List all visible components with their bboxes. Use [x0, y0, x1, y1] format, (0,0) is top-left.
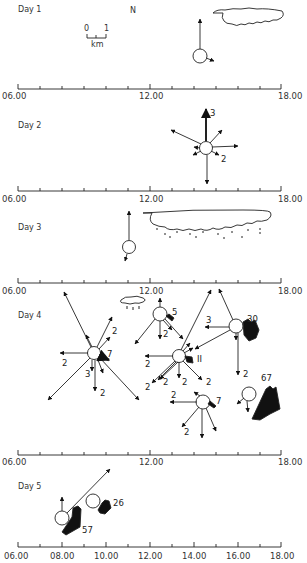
day1-panel	[18, 8, 283, 89]
day2-tick-0600: 06.00	[2, 194, 26, 204]
day4-a-count-s: 2	[100, 388, 105, 398]
day3-tick-1200: 12.00	[139, 286, 163, 296]
day4-tick-1200: 12.00	[139, 457, 163, 467]
scale-one: 1	[104, 24, 109, 33]
day5-tick-1600: 16.00	[226, 551, 250, 561]
day4-c-count-sw1: 2	[145, 382, 150, 392]
day4-b-label: 5	[172, 307, 177, 317]
day4-a-count-ne: 2	[112, 326, 117, 336]
day4-tick-0600: 06.00	[2, 457, 26, 467]
day5-a-label: 57	[82, 525, 93, 535]
cloud-icon	[213, 8, 283, 26]
day4-f-label: 67	[261, 373, 272, 383]
day4-e-count-w: 2	[171, 390, 176, 400]
day4-d-count-w: 3	[206, 315, 211, 325]
day2-count-north: 3	[210, 108, 215, 118]
day4-d-label: 30	[247, 314, 258, 324]
day4-c-label: II	[197, 354, 202, 364]
day5-tick-1400: 14.00	[182, 551, 206, 561]
day2-tick-1200: 12.00	[139, 194, 163, 204]
day1-tick-0600: 06.00	[2, 91, 26, 101]
day4-c-count-w: 2	[145, 359, 150, 369]
day2-count-se: 2	[221, 154, 226, 164]
day5-tick-1000: 10.00	[94, 551, 118, 561]
day4-a-count-sw: 3	[85, 369, 90, 379]
day5-panel	[18, 453, 283, 547]
day3-tick-1800: 18.00	[278, 286, 302, 296]
day4-c-count-s: 2	[182, 377, 187, 387]
day1-ticks	[18, 84, 281, 89]
day4-panel	[18, 289, 281, 455]
day4-e-label: 7	[216, 396, 221, 406]
day3-label: Day 3	[18, 223, 41, 232]
day4-c-count-se: 2	[206, 377, 211, 387]
day4-a-count-w: 2	[62, 358, 67, 368]
day4-tick-1800: 18.00	[278, 457, 302, 467]
day5-tick-0800: 08.00	[50, 551, 74, 561]
day5-b-label: 26	[113, 498, 124, 508]
day4-b-count-s: 2	[163, 329, 168, 339]
day2-panel	[18, 109, 281, 191]
day4-e-count-sw: 2	[184, 427, 189, 437]
north-label: N	[130, 6, 136, 15]
day5-tick-1800: 18.00	[270, 551, 294, 561]
day4-d-count-s: 2	[243, 369, 248, 379]
day3-tick-0600: 06.00	[2, 286, 26, 296]
small-rain-cloud-icon	[121, 296, 146, 304]
day2-label: Day 2	[18, 121, 41, 130]
day2-tick-1800: 18.00	[278, 194, 302, 204]
day4-a-count-e: 7	[107, 349, 112, 359]
scale-zero: 0	[84, 24, 89, 33]
day5-tick-1200: 12.00	[138, 551, 162, 561]
day1-tick-1800: 18.00	[278, 91, 302, 101]
movement-diagram: Day 1 N 0 1 km 06.00 12.00 18.00 Day 2 3…	[0, 0, 307, 563]
scale-bar	[87, 34, 106, 38]
day4-c-count-sw2: 2	[163, 377, 168, 387]
day1-label: Day 1	[18, 5, 41, 14]
rain-cloud-icon	[143, 210, 271, 231]
day5-tick-0600: 06.00	[4, 551, 28, 561]
scale-unit: km	[91, 40, 104, 49]
day5-label: Day 5	[18, 482, 41, 491]
day1-tick-1200: 12.00	[139, 91, 163, 101]
day3-panel	[18, 210, 281, 283]
day4-label: Day 4	[18, 311, 41, 320]
